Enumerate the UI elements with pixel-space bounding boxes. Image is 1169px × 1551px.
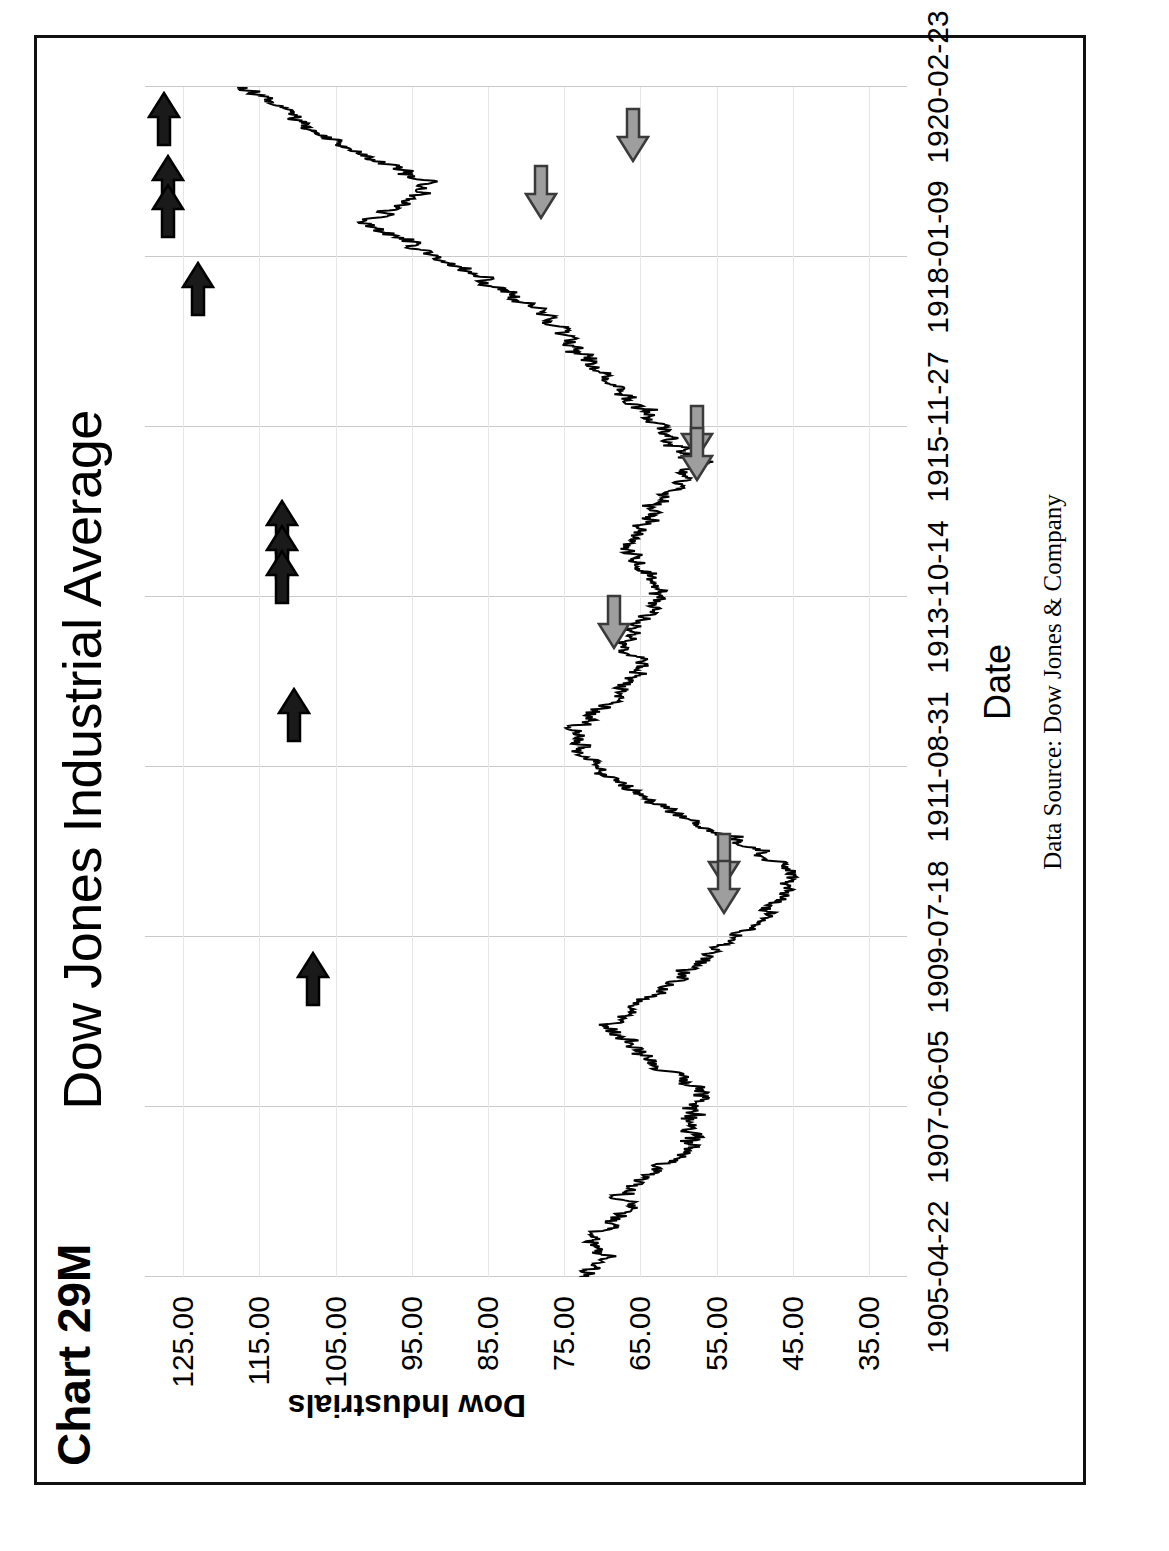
gray-arrow-annotation — [597, 595, 635, 651]
chart-page: Chart 29M Dow Jones Industrial Average 1… — [0, 0, 1169, 1551]
black-arrow-annotation — [277, 687, 315, 743]
x-tick-label: 1909-07-18 — [921, 860, 955, 1013]
x-tick-label: 1915-11-27 — [921, 351, 955, 502]
rotated-chart-canvas: Chart 29M Dow Jones Industrial Average 1… — [37, 38, 1083, 1482]
black-arrow-annotation — [265, 549, 303, 605]
y-tick-label: 125.00 — [166, 1296, 200, 1388]
x-tick-label: 1905-04-22 — [921, 1200, 955, 1353]
x-axis-title: Date — [977, 87, 1019, 1277]
y-tick-label: 55.00 — [700, 1296, 734, 1371]
black-arrow-annotation — [147, 91, 185, 147]
y-axis-title: Dow Industrials — [288, 1387, 526, 1424]
black-arrow-annotation — [181, 261, 219, 317]
y-tick-label: 65.00 — [623, 1296, 657, 1371]
gray-arrow-annotation — [524, 164, 562, 220]
y-tick-label: 95.00 — [395, 1296, 429, 1371]
y-tick-label: 85.00 — [471, 1296, 505, 1371]
y-tick-label: 115.00 — [242, 1296, 276, 1386]
y-tick-label: 75.00 — [547, 1296, 581, 1371]
x-tick-label: 1911-08-31 — [921, 691, 955, 842]
x-tick-label: 1920-02-23 — [921, 10, 955, 163]
y-tick-label: 35.00 — [852, 1296, 886, 1371]
black-arrow-annotation — [296, 952, 334, 1008]
gray-arrow-annotation — [616, 107, 654, 163]
x-tick-label: 1907-06-05 — [921, 1030, 955, 1183]
x-tick-label: 1918-01-09 — [921, 180, 955, 333]
data-series-line — [145, 87, 907, 1277]
x-tick-label: 1913-10-14 — [921, 520, 955, 673]
gray-arrow-annotation — [707, 859, 745, 915]
chart-title: Dow Jones Industrial Average — [51, 38, 113, 1482]
black-arrow-annotation — [151, 183, 189, 239]
chart-frame: Chart 29M Dow Jones Industrial Average 1… — [34, 35, 1086, 1485]
y-tick-label: 105.00 — [319, 1296, 353, 1388]
data-source-note: Data Source: Dow Jones & Company — [1039, 87, 1067, 1277]
y-tick-label: 45.00 — [776, 1296, 810, 1371]
gray-arrow-annotation — [680, 426, 718, 482]
